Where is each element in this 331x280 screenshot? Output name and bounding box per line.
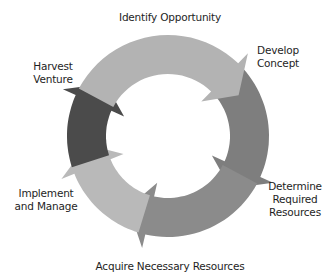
- label-develop-concept: Develop Concept: [248, 44, 308, 70]
- cycle-arrows: [61, 35, 273, 248]
- label-identify-opportunity: Identify Opportunity: [108, 11, 232, 24]
- label-implement-and-manage: Implement and Manage: [10, 187, 82, 213]
- cycle-arrow-identify-opportunity: [79, 35, 248, 107]
- cycle-arrow-determine-required-resources: [129, 165, 258, 248]
- label-determine-required-resources: Determine Required Resources: [259, 180, 331, 219]
- label-acquire-necessary-resources: Acquire Necessary Resources: [88, 260, 252, 273]
- venture-cycle-diagram: [0, 0, 331, 280]
- label-harvest-venture: Harvest Venture: [28, 60, 78, 86]
